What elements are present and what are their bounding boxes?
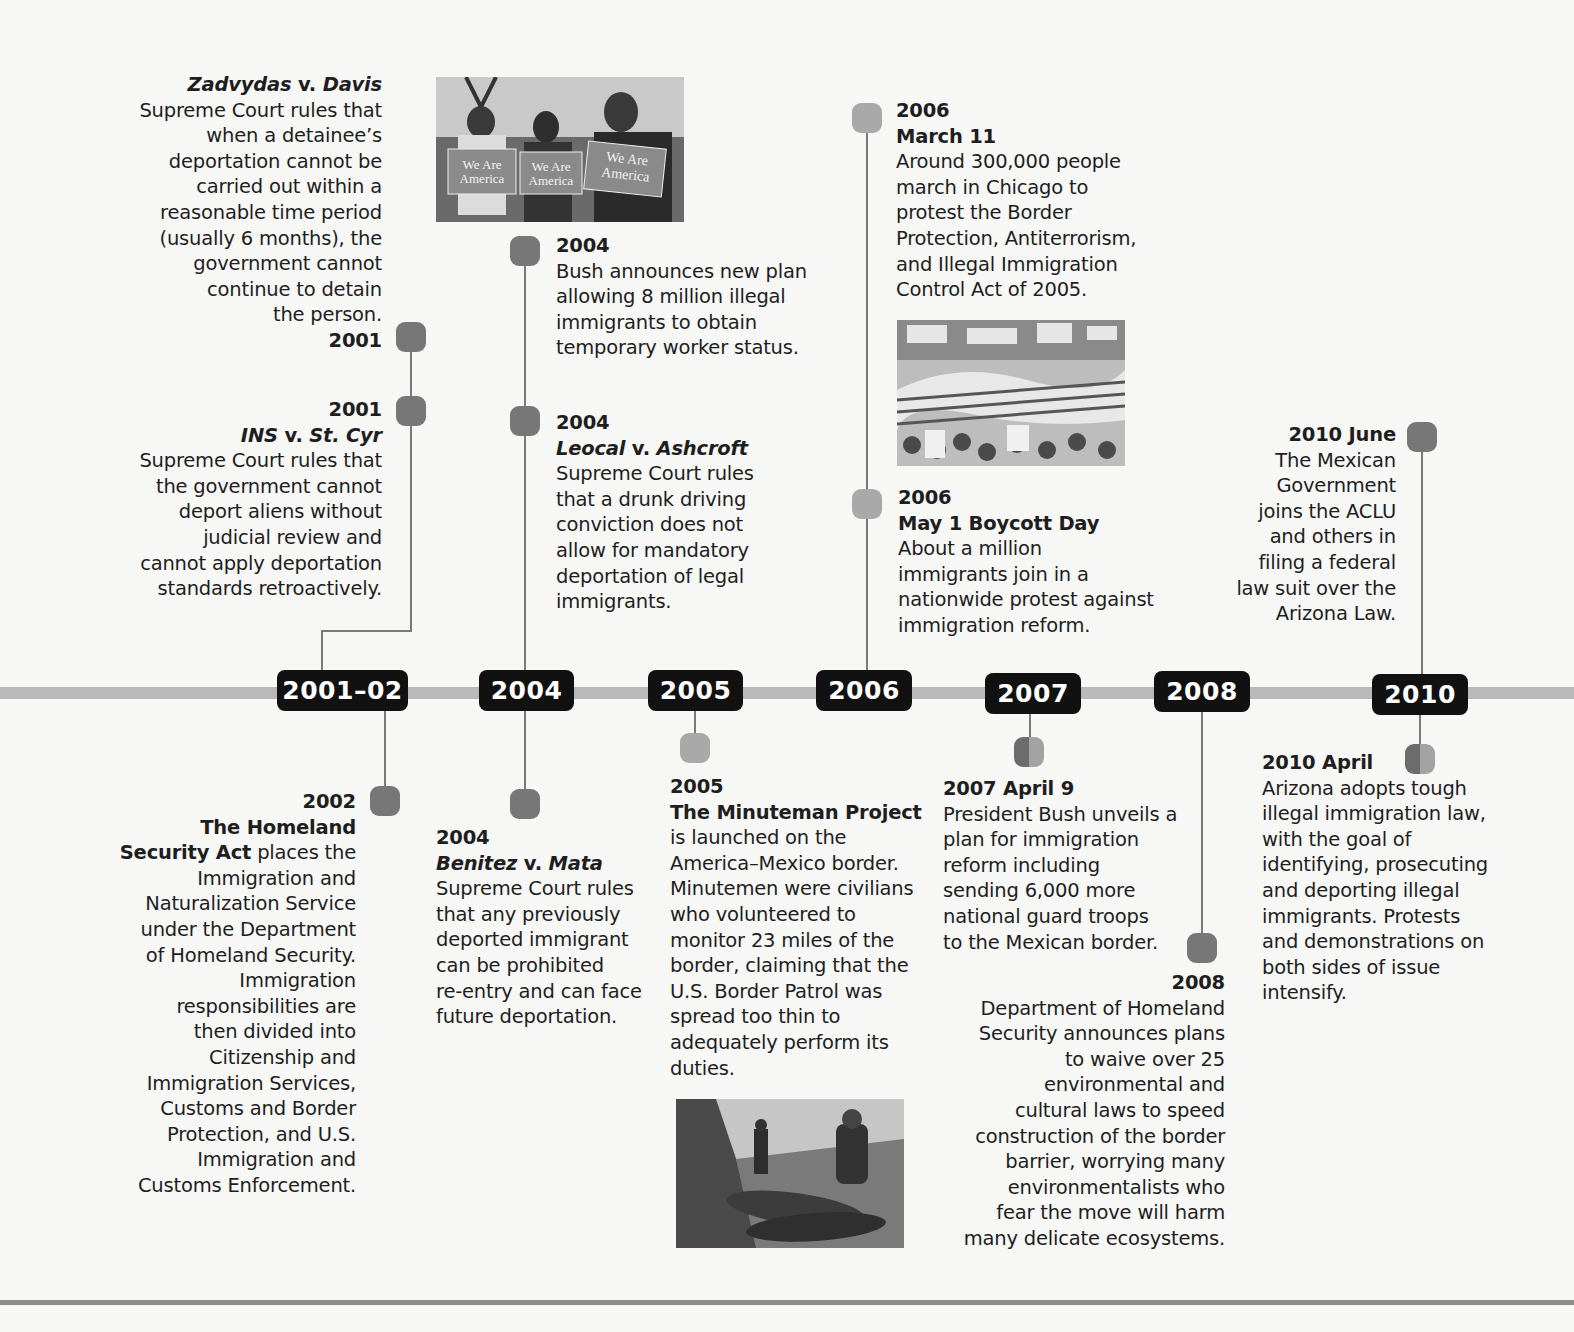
connector-line [321, 630, 323, 672]
bottom-rule [0, 1300, 1574, 1305]
svg-text:We Are: We Are [531, 159, 570, 174]
event-title: The Minuteman Project [670, 800, 930, 826]
timeline-axis [0, 687, 1574, 699]
year-marker-2005: 2005 [648, 670, 743, 711]
event-homeland-2002: 2002 The Homeland Security Act places th… [100, 789, 356, 1199]
connector-line [384, 708, 386, 796]
svg-text:America: America [529, 173, 574, 188]
event-arizona-2010: 2010 April Arizona adopts tough illegal … [1262, 750, 1512, 1006]
connector-line [866, 130, 868, 672]
event-date: 2006 [898, 485, 1188, 511]
event-node-ins-st-cyr [396, 396, 426, 426]
connector-line [410, 350, 412, 632]
connector-line [524, 262, 526, 672]
event-date: 2002 [100, 789, 356, 815]
event-node-june-2010 [1407, 422, 1437, 452]
year-marker-2007: 2007 [985, 673, 1081, 714]
connector-line [1419, 712, 1421, 747]
event-date: 2005 [670, 774, 930, 800]
event-date: 2004 [556, 410, 816, 436]
year-marker-2004: 2004 [479, 670, 574, 711]
event-date: 2004 [556, 233, 826, 259]
photo-border-patrol [676, 1099, 904, 1248]
event-june-2010: 2010 June The Mexican Government joins t… [1200, 422, 1396, 627]
event-benitez: 2004 Benitez v. Mata Supreme Court rules… [436, 825, 666, 1030]
event-date: 2001 [100, 397, 382, 423]
event-node-leocal [510, 406, 540, 436]
event-date: 2001 [110, 328, 382, 354]
event-node-homeland-2002 [370, 786, 400, 816]
event-title: March 11 [896, 124, 1186, 150]
event-march-2006: 2006 March 11 Around 300,000 people marc… [896, 98, 1186, 303]
event-minuteman-2005: 2005 The Minuteman Project is launched o… [670, 774, 930, 1081]
event-date: 2006 [896, 98, 1186, 124]
event-title: May 1 Boycott Day [898, 511, 1188, 537]
svg-text:America: America [460, 171, 505, 186]
connector-line [524, 708, 526, 798]
event-date: 2008 [940, 970, 1225, 996]
photo-we-are-america: We Are America We Are America We Are Ame… [436, 77, 684, 222]
event-node-april-2007 [1014, 737, 1044, 767]
year-marker-2001-02: 2001–02 [277, 670, 408, 711]
connector-line [1201, 712, 1203, 938]
event-node-benitez [510, 789, 540, 819]
year-marker-2006: 2006 [816, 670, 912, 711]
event-date: 2007 April 9 [943, 776, 1193, 802]
event-node-bush-plan-2004 [510, 236, 540, 266]
case-title: Benitez v. Mata [436, 851, 666, 877]
case-title: Zadvydas v. Davis [110, 72, 382, 98]
event-dhs-2008: 2008 Department of Homeland Security ann… [940, 970, 1225, 1252]
event-node-zadvydas [396, 322, 426, 352]
event-date: 2004 [436, 825, 666, 851]
connector-line [1421, 450, 1423, 678]
event-boycott-2006: 2006 May 1 Boycott Day About a million i… [898, 485, 1188, 639]
event-zadvydas: Zadvydas v. Davis Supreme Court rules th… [110, 72, 382, 354]
year-marker-2008: 2008 [1154, 671, 1250, 712]
event-april-2007: 2007 April 9 President Bush unveils a pl… [943, 776, 1193, 955]
event-node-minuteman-2005 [680, 733, 710, 763]
svg-text:We Are: We Are [462, 157, 501, 172]
event-date: 2010 June [1200, 422, 1396, 448]
event-ins-st-cyr: 2001 INS v. St. Cyr Supreme Court rules … [100, 397, 382, 602]
case-title: INS v. St. Cyr [100, 423, 382, 449]
photo-chicago-march [897, 320, 1125, 466]
case-title: Leocal v. Ashcroft [556, 436, 816, 462]
year-marker-2010: 2010 [1372, 674, 1468, 715]
event-date: 2010 April [1262, 750, 1512, 776]
event-bush-plan-2004: 2004 Bush announces new plan allowing 8 … [556, 233, 826, 361]
connector-line [321, 630, 412, 632]
event-node-march-2006 [852, 103, 882, 133]
event-node-boycott-2006 [852, 489, 882, 519]
event-leocal: 2004 Leocal v. Ashcroft Supreme Court ru… [556, 410, 816, 615]
